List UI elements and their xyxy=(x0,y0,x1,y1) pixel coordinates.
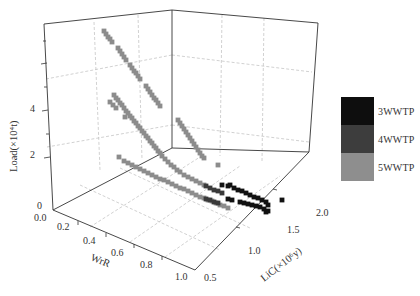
legend-item-3wwtp: 3WWTP xyxy=(341,97,420,125)
data-point xyxy=(220,183,225,188)
data-point xyxy=(230,198,235,203)
x-tick-label: 0.4 xyxy=(83,235,96,246)
legend-swatch xyxy=(341,97,374,125)
data-point xyxy=(117,155,122,160)
z-tick-label: 2 xyxy=(30,149,35,160)
z-tick-label: 4 xyxy=(30,103,35,114)
data-point xyxy=(110,40,115,45)
data-point xyxy=(216,201,221,206)
y-axis-title: LiC(×10⁶y) xyxy=(258,245,304,285)
data-point xyxy=(202,156,207,161)
legend-swatch xyxy=(341,153,374,181)
x-tick-label: 0.8 xyxy=(140,259,153,270)
legend-swatch xyxy=(341,125,374,153)
legend-item-5wwtp: 5WWTP xyxy=(341,153,420,181)
z-axis-title: Load(×10⁴t) xyxy=(8,120,20,172)
data-point xyxy=(220,191,225,196)
data-point xyxy=(264,210,269,215)
legend: 3WWTP 4WWTP 5WWTP xyxy=(341,97,420,181)
x-tick-label: 0.0 xyxy=(34,212,47,223)
axes-frame xyxy=(44,10,318,270)
data-point xyxy=(216,163,221,168)
data-points xyxy=(102,29,285,215)
x-tick-label: 0.2 xyxy=(57,221,70,232)
data-point xyxy=(158,104,163,109)
z-tick-label: 0 xyxy=(37,200,42,211)
x-tick-label: 1.0 xyxy=(175,271,188,282)
data-point xyxy=(226,206,231,211)
x-tick-label: 0.6 xyxy=(111,247,124,258)
data-point xyxy=(280,198,285,203)
legend-label: 4WWTP xyxy=(378,134,415,145)
x-axis-title: WrR xyxy=(89,252,112,270)
data-point xyxy=(114,106,119,111)
back-wall-grid xyxy=(46,15,312,257)
data-point xyxy=(138,77,143,82)
y-tick-label: 1.0 xyxy=(248,245,261,256)
legend-label: 5WWTP xyxy=(378,162,415,173)
y-tick-label: 2.0 xyxy=(316,207,329,218)
data-point xyxy=(123,115,128,120)
legend-label: 3WWTP xyxy=(378,106,415,117)
data-point xyxy=(124,58,129,63)
y-tick-label: 1.5 xyxy=(287,224,300,235)
legend-item-4wwtp: 4WWTP xyxy=(341,125,420,153)
y-tick-label: 0.5 xyxy=(204,272,217,283)
